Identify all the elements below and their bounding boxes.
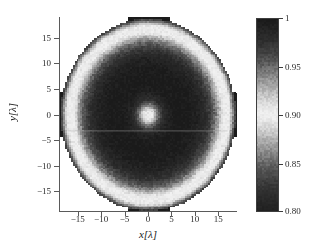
x-axis-title: x[λ] [0,228,296,240]
y-tick-label: 15 [42,34,51,43]
colorbar-tick-label: 0.90 [285,111,301,120]
y-tick-label: 0 [47,111,52,120]
colorbar-tick-label: 0.85 [285,160,301,169]
y-tick-mark [54,191,60,192]
y-tick-mark [54,166,60,167]
y-tick-label: 10 [42,59,51,68]
colorbar-tick-label: 1 [285,14,290,23]
colorbar-tick-label: 0.95 [285,63,301,72]
colorbar-tick-label: 0.80 [285,207,301,216]
y-tick-mark [54,140,60,141]
colorbar-tick-mark [279,164,283,165]
plot-area [59,17,237,212]
y-tick-mark [54,63,60,64]
x-tick-label: 15 [203,215,233,224]
colorbar-tick-mark [279,18,283,19]
y-tick-label: 5 [47,85,52,94]
colorbar-tick-mark [279,67,283,68]
y-tick-mark [54,38,60,39]
y-tick-label: −10 [37,162,51,171]
colorbar-tick-mark [279,211,283,212]
y-axis-title: y[λ] [6,92,18,132]
heatmap-image [59,17,237,212]
colorbar [256,18,279,212]
colorbar-gradient [256,18,279,212]
figure-heatmap-plot: 151050−5−10−15−15−10−5051015 x[λ] y[λ] 1… [0,0,313,251]
y-tick-label: −5 [41,136,51,145]
colorbar-tick-mark [279,115,283,116]
y-tick-label: −15 [37,187,51,196]
y-tick-mark [54,89,60,90]
y-tick-mark [54,115,60,116]
